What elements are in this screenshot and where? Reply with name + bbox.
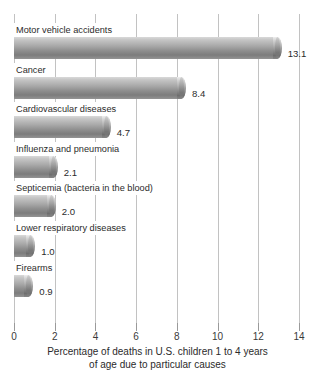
bar-end-cap-highlight [104, 116, 109, 138]
tick-label-0: 0 [2, 331, 26, 343]
bar-value-label: 2.1 [64, 167, 77, 179]
tick-8 [177, 323, 178, 331]
category-label: Influenza and pneumonia [14, 142, 122, 156]
category-label: Cardiovascular diseases [14, 102, 119, 116]
category-label: Lower respiratory diseases [14, 221, 129, 235]
chart-caption: Percentage of deaths in U.S. children 1 … [0, 345, 315, 371]
bar-end-cap-highlight [179, 77, 184, 99]
tick-6 [136, 323, 137, 331]
bar-value-label: 2.0 [62, 206, 75, 218]
category-label: Motor vehicle accidents [14, 23, 115, 37]
category-label: Cancer [14, 63, 49, 77]
bar-group: Firearms0.9 [0, 261, 315, 297]
tick-label-4: 4 [83, 331, 107, 343]
category-label: Firearms [14, 261, 55, 275]
bar-group: Motor vehicle accidents13.1 [0, 23, 315, 59]
bar [14, 235, 34, 257]
bar-end-cap [177, 77, 186, 99]
bar-body [14, 195, 51, 217]
bar-value-label: 1.0 [41, 246, 54, 258]
bar-end-cap-highlight [51, 156, 56, 178]
bar-body [14, 116, 106, 138]
bar-end-cap [26, 235, 35, 257]
bar [14, 275, 32, 297]
bar-end-cap [102, 116, 111, 138]
bar-value-label: 0.9 [39, 286, 52, 298]
bar-body [14, 37, 277, 59]
tick-label-14: 14 [287, 331, 311, 343]
tick-4 [95, 323, 96, 331]
tick-label-2: 2 [43, 331, 67, 343]
bar-end-cap-highlight [275, 37, 280, 59]
bar [14, 37, 281, 59]
bar-value-label: 8.4 [192, 88, 205, 100]
tick-label-6: 6 [124, 331, 148, 343]
tick-label-10: 10 [206, 331, 230, 343]
tick-0 [14, 323, 15, 331]
caption-line-1: Percentage of deaths in U.S. children 1 … [0, 345, 315, 358]
bar-body [14, 77, 181, 99]
bar [14, 77, 185, 99]
bar [14, 116, 110, 138]
plot-area: 02468101214 Motor vehicle accidents13.1C… [0, 0, 315, 331]
bar-end-cap-highlight [28, 235, 33, 257]
bar-end-cap [24, 275, 33, 297]
bar-group: Cancer8.4 [0, 63, 315, 99]
bar-group: Lower respiratory diseases1.0 [0, 221, 315, 257]
bar-end-cap-highlight [49, 195, 54, 217]
tick-12 [258, 323, 259, 331]
bar-end-cap-highlight [26, 275, 31, 297]
tick-10 [218, 323, 219, 331]
category-label: Septicemia (bacteria in the blood) [14, 181, 156, 195]
bar-group: Cardiovascular diseases4.7 [0, 102, 315, 138]
bar [14, 156, 57, 178]
tick-2 [55, 323, 56, 331]
bar-end-cap [49, 156, 58, 178]
tick-14 [299, 323, 300, 331]
caption-line-2: of age due to particular causes [0, 358, 315, 371]
tick-label-8: 8 [165, 331, 189, 343]
bar-body [14, 156, 53, 178]
tick-label-12: 12 [246, 331, 270, 343]
bar-group: Septicemia (bacteria in the blood)2.0 [0, 181, 315, 217]
bar-end-cap [273, 37, 282, 59]
bar [14, 195, 55, 217]
bar-value-label: 4.7 [117, 127, 130, 139]
bar-value-label: 13.1 [288, 48, 307, 60]
bar-chart: 02468101214 Motor vehicle accidents13.1C… [0, 0, 315, 374]
bar-end-cap [47, 195, 56, 217]
bar-group: Influenza and pneumonia2.1 [0, 142, 315, 178]
